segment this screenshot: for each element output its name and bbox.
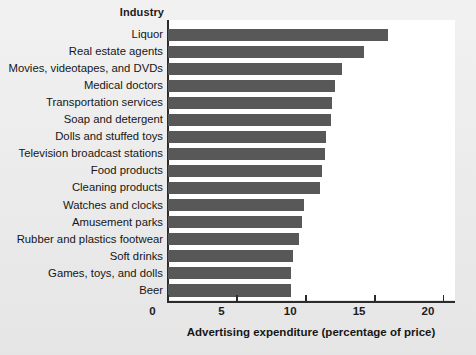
category-label: Watches and clocks: [0, 199, 163, 213]
advertising-expenditure-bar-chart: Industry LiquorReal estate agentsMovies,…: [0, 0, 476, 355]
bar: [168, 46, 364, 58]
category-label: Television broadcast stations: [0, 147, 163, 161]
x-axis-title: Advertising expenditure (percentage of p…: [167, 326, 455, 338]
bar: [168, 29, 388, 41]
bar: [168, 182, 320, 194]
category-label: Soft drinks: [0, 250, 163, 264]
category-label: Medical doctors: [0, 79, 163, 93]
bar: [168, 267, 291, 279]
bar: [168, 80, 335, 92]
category-label: Transportation services: [0, 96, 163, 110]
x-tick-label: 0: [138, 305, 168, 317]
x-tick-label: 5: [206, 305, 236, 317]
x-tick-label: 15: [344, 305, 374, 317]
category-label: Soap and detergent: [0, 113, 163, 127]
x-tick: [168, 295, 169, 302]
bar: [168, 165, 322, 177]
x-tick-label: 10: [275, 305, 305, 317]
category-label: Liquor: [0, 28, 163, 42]
category-label: Cleaning products: [0, 181, 163, 195]
bar: [168, 250, 293, 262]
category-column-header: Industry: [0, 6, 164, 18]
category-label: Rubber and plastics footwear: [0, 233, 163, 247]
x-tick-label: 20: [413, 305, 443, 317]
x-axis-line: [167, 301, 455, 303]
x-tick: [305, 295, 306, 302]
bar: [168, 131, 326, 143]
x-tick: [374, 295, 375, 302]
category-label: Movies, videotapes, and DVDs: [0, 62, 163, 76]
bar: [168, 199, 304, 211]
bar: [168, 284, 291, 296]
category-label: Dolls and stuffed toys: [0, 130, 163, 144]
bar: [168, 216, 302, 228]
bar: [168, 114, 331, 126]
category-label: Amusement parks: [0, 216, 163, 230]
x-tick: [443, 295, 444, 302]
bar: [168, 63, 342, 75]
category-label: Food products: [0, 164, 163, 178]
bar: [168, 233, 299, 245]
bar: [168, 97, 332, 109]
category-label: Games, toys, and dolls: [0, 267, 163, 281]
category-label: Beer: [0, 284, 163, 298]
bar: [168, 148, 325, 160]
x-tick: [236, 295, 237, 302]
category-label: Real estate agents: [0, 45, 163, 59]
